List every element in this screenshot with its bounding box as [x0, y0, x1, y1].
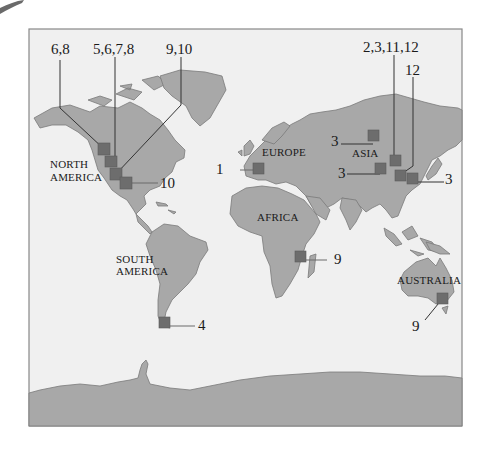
site-marker[interactable]	[98, 143, 110, 155]
site-marker[interactable]	[159, 317, 170, 328]
site-marker[interactable]	[395, 170, 406, 181]
callout-asia-4: 3	[338, 165, 346, 181]
callout-na-4: 10	[160, 175, 175, 191]
label-north-america: NORTH	[50, 158, 88, 170]
callout-na-1: 6,8	[51, 41, 70, 57]
callout-asia-3: 3	[331, 133, 339, 149]
callout-asia-5: 3	[445, 171, 453, 187]
site-marker[interactable]	[390, 155, 401, 166]
label-south-america: SOUTH	[116, 253, 154, 265]
callout-south-america: 4	[198, 317, 206, 333]
callout-europe: 1	[216, 161, 224, 177]
site-marker[interactable]	[295, 251, 306, 262]
site-marker[interactable]	[437, 293, 448, 304]
label-north-america: AMERICA	[50, 171, 102, 183]
callout-na-3: 9,10	[166, 41, 192, 57]
decorative-swoosh	[0, 0, 24, 14]
site-marker[interactable]	[120, 177, 132, 189]
callout-australia: 9	[412, 318, 420, 334]
site-marker[interactable]	[105, 156, 117, 167]
label-africa: AFRICA	[257, 211, 299, 223]
callout-africa: 9	[334, 251, 342, 267]
callout-asia-2: 12	[405, 62, 420, 78]
label-europe: EUROPE	[262, 146, 306, 158]
site-marker[interactable]	[368, 130, 379, 141]
label-asia: ASIA	[352, 147, 378, 159]
site-marker[interactable]	[253, 163, 264, 174]
label-south-america: AMERICA	[116, 265, 168, 277]
site-marker[interactable]	[407, 173, 418, 184]
callout-na-2: 5,6,7,8	[93, 41, 134, 57]
world-map-figure: NORTH AMERICA SOUTH AMERICA EUROPE ASIA …	[0, 0, 487, 452]
site-marker[interactable]	[375, 163, 386, 174]
label-australia: AUSTRALIA	[397, 274, 461, 286]
callout-asia-1: 2,3,11,12	[363, 39, 419, 55]
